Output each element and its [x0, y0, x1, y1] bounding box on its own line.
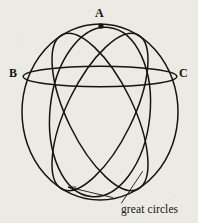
- point-a-dot: [98, 23, 103, 28]
- point-label-c: C: [179, 67, 188, 79]
- figure-canvas: [0, 0, 198, 223]
- point-label-a: A: [95, 7, 104, 19]
- great-circles-annotation-label: great circles: [121, 204, 178, 216]
- sphere-outline: [22, 24, 178, 200]
- great-circle-equator: [23, 66, 177, 86]
- sphere-great-circles-figure: A B C great circles: [0, 0, 198, 223]
- great-circle-4: [41, 22, 158, 202]
- point-label-b: B: [9, 67, 17, 79]
